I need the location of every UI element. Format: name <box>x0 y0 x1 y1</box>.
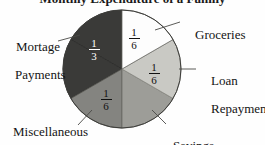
slice-value-mortgage-payments: 1 3 <box>84 38 104 61</box>
callout-mortgage-payments-line2: Payments <box>15 67 66 82</box>
callout-loan-repayments-line1: Loan <box>211 73 238 88</box>
fraction-numerator: 1 <box>84 38 104 48</box>
fraction-denominator: 6 <box>124 40 144 50</box>
slice-value-groceries: 1 6 <box>124 27 144 50</box>
callout-loan-repayments[interactable]: Loan Repayments <box>198 60 264 130</box>
callout-savings[interactable]: Savings <box>160 125 220 145</box>
callout-loan-repayments-line2: Repayments <box>211 101 265 116</box>
fraction-numerator: 1 <box>124 27 144 37</box>
slice-value-miscellaneous-spending: 1 6 <box>96 88 116 111</box>
callout-groceries-label: Groceries <box>195 27 246 42</box>
callout-mortgage-payments[interactable]: Mortage Payments <box>2 26 60 96</box>
pie-chart-figure: Monthly Expenditure of a Family Mortage … <box>0 0 265 145</box>
fraction-numerator: 1 <box>144 62 164 72</box>
callout-groceries[interactable]: Groceries <box>182 14 260 56</box>
fraction-denominator: 6 <box>96 101 116 111</box>
fraction-denominator: 3 <box>84 51 104 61</box>
callout-miscellaneous-spending[interactable]: Miscellaneous Spending <box>0 111 78 145</box>
callout-savings-label: Savings <box>173 138 214 145</box>
callout-mortgage-payments-line1: Mortage <box>16 39 60 54</box>
fraction-numerator: 1 <box>96 88 116 98</box>
callout-miscellaneous-spending-line1: Miscellaneous <box>13 124 88 139</box>
slice-value-loan-repayments: 1 6 <box>144 62 164 85</box>
fraction-denominator: 6 <box>144 75 164 85</box>
